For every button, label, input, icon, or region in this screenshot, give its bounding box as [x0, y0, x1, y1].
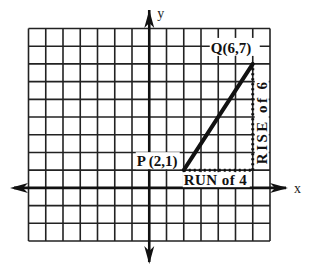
- coordinate-plane: y x Q(6,7) P (2,1) RUN of 4 RISE of 6: [0, 0, 312, 274]
- point-p-label: P (2,1): [137, 153, 178, 170]
- y-axis-label: y: [157, 6, 164, 21]
- run-label: RUN of 4: [184, 172, 248, 188]
- rise-label: RISE of 6: [254, 81, 270, 164]
- point-q-label: Q(6,7): [211, 40, 251, 57]
- slope-diagram: y x Q(6,7) P (2,1) RUN of 4 RISE of 6: [0, 0, 312, 274]
- x-axis-label: x: [294, 181, 301, 196]
